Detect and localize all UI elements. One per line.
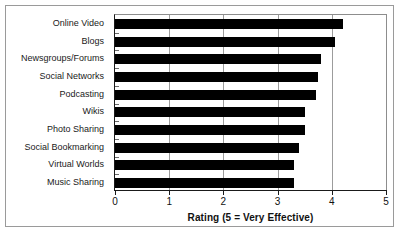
category-tick [115,121,119,122]
bar [115,178,294,188]
plot-area [114,14,387,191]
chart-figure: Online Video Blogs Newsgroups/Forums Soc… [5,5,394,227]
x-axis-tick [223,190,224,195]
bar [115,19,343,29]
category-tick [115,68,119,69]
bar [115,160,294,170]
category-label: Social Networks [0,71,104,81]
category-label: Social Bookmarking [0,142,104,152]
x-axis-title: Rating (5 = Very Effective) [114,212,387,223]
gridline [386,15,387,190]
category-label: Music Sharing [0,177,104,187]
x-axis-tick-labels: 012345 [114,196,387,210]
bar [115,107,305,117]
category-tick [115,50,119,51]
x-axis-tick-label: 1 [154,196,184,208]
x-axis-tick [278,190,279,195]
category-tick [115,86,119,87]
x-axis-tick [332,190,333,195]
bar [115,54,321,64]
category-label: Wikis [0,106,104,116]
x-axis-tick-label: 5 [371,196,401,208]
x-axis-tick [115,190,116,195]
category-tick [115,104,119,105]
category-tick [115,33,119,34]
bar [115,143,299,153]
category-label: Online Video [0,18,104,28]
category-tick [115,139,119,140]
category-label: Blogs [0,36,104,46]
category-label: Newsgroups/Forums [0,53,104,63]
category-tick [115,174,119,175]
x-axis-tick-label: 4 [317,196,347,208]
category-tick [115,157,119,158]
bar [115,72,318,82]
x-axis-tick-label: 3 [263,196,293,208]
x-axis-tick-label: 2 [208,196,238,208]
category-label: Photo Sharing [0,124,104,134]
category-axis-labels: Online Video Blogs Newsgroups/Forums Soc… [6,14,108,191]
bar [115,37,335,47]
x-axis-tick-label: 0 [100,196,130,208]
bar [115,125,305,135]
category-label: Virtual Worlds [0,159,104,169]
x-axis-tick [169,190,170,195]
bar [115,90,316,100]
category-label: Podcasting [0,89,104,99]
x-axis-tick [386,190,387,195]
